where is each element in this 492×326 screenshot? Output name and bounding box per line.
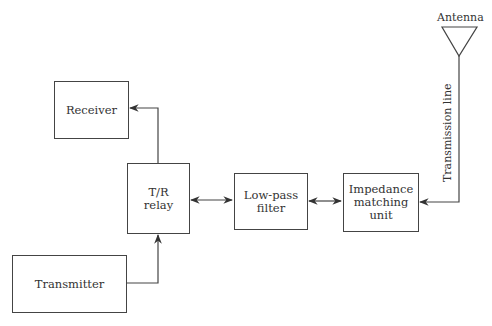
- antenna-label: Antenna: [437, 11, 484, 24]
- tr-relay-block: T/R relay: [127, 163, 190, 234]
- tr-relay-label-2: relay: [144, 199, 173, 212]
- receiver-block: Receiver: [54, 81, 129, 139]
- transmitter-block: Transmitter: [12, 255, 127, 313]
- antenna-icon: [442, 27, 477, 56]
- transmitter-label: Transmitter: [35, 278, 104, 291]
- receiver-label: Receiver: [66, 104, 117, 117]
- lpf-label-2: filter: [257, 202, 285, 215]
- lpf-label-1: Low-pass: [244, 189, 298, 202]
- low-pass-filter-block: Low-pass filter: [234, 173, 308, 230]
- impedance-matching-block: Impedance matching unit: [343, 173, 419, 232]
- imp-label-3: unit: [369, 209, 392, 222]
- transmission-line-label: Transmission line: [441, 84, 454, 182]
- arrow-transmitter-to-relay: [127, 235, 158, 283]
- arrow-relay-to-receiver: [130, 108, 158, 163]
- tr-relay-label-1: T/R: [148, 186, 168, 199]
